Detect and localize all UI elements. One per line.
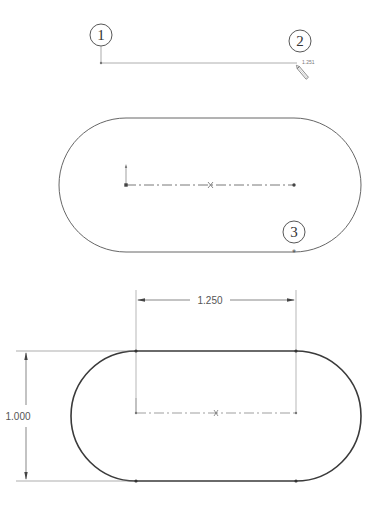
callout-1: 1 — [90, 24, 112, 46]
step2-group: 3 * — [59, 118, 361, 258]
dimension-horizontal[interactable]: 1.250 — [137, 295, 295, 306]
line-length-readout: 1.251 — [302, 59, 315, 65]
step1-group: 1 2 1.251 — [90, 24, 315, 79]
cursor-point-icon: * — [292, 249, 296, 258]
callout-1-label: 1 — [97, 27, 105, 43]
endpoint-bottom-right — [294, 479, 297, 482]
centerline-start-point — [124, 183, 127, 186]
slot-outline-preview — [59, 118, 361, 252]
callout-2-label: 2 — [296, 33, 304, 49]
endpoint-top-right — [294, 349, 297, 352]
dimension-vertical-value[interactable]: 1.000 — [5, 411, 30, 422]
centerline-end-point — [292, 183, 295, 186]
step3-group: 1.250 1.000 — [5, 290, 361, 483]
endpoint-bottom-left — [134, 479, 137, 482]
start-point — [100, 62, 102, 64]
endpoint-top-left — [134, 349, 137, 352]
dimension-vertical[interactable]: 1.000 — [5, 352, 30, 480]
pencil-cursor-icon — [295, 64, 308, 79]
centerline-end-point — [295, 412, 297, 414]
callout-3: 3 — [283, 221, 305, 243]
slot-sketch-diagram: 1 2 1.251 3 * — [0, 0, 380, 510]
slot-outline — [71, 351, 361, 481]
dimension-horizontal-value[interactable]: 1.250 — [197, 295, 222, 306]
centerline-start-point — [135, 412, 137, 414]
callout-2: 2 — [289, 30, 311, 52]
callout-3-label: 3 — [290, 224, 298, 240]
